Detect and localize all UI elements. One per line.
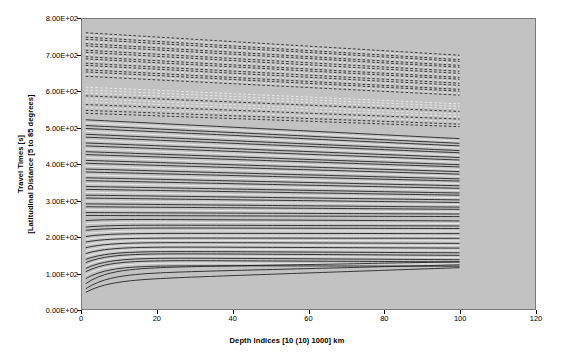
y-tick-label: 1.00E+02 (30, 270, 78, 279)
travel-time-curve (86, 219, 460, 220)
y-tick-mark (77, 128, 81, 129)
travel-time-curve (86, 222, 460, 223)
x-tick-label: 20 (142, 314, 172, 323)
travel-time-curve (86, 52, 460, 73)
x-tick-mark (384, 310, 385, 314)
x-tick-mark (309, 310, 310, 314)
x-tick-mark (233, 310, 234, 314)
travel-time-curve (86, 70, 460, 90)
chart-figure: Travel Times [s] [Latitudinal Distance [… (0, 0, 574, 357)
x-axis-title: Depth Indices [10 (10) 1000] km (0, 336, 574, 345)
y-tick-mark (77, 237, 81, 238)
travel-time-curve (86, 46, 460, 67)
travel-time-curve (86, 228, 460, 230)
travel-time-curve (86, 50, 460, 71)
travel-time-curve (86, 33, 460, 55)
travel-time-curve (86, 63, 460, 83)
travel-time-curve (86, 169, 460, 179)
y-tick-label: 6.00E+02 (30, 87, 78, 96)
x-tick-label: 0 (66, 314, 96, 323)
y-tick-label: 8.00E+02 (30, 14, 78, 23)
travel-time-curve (86, 262, 460, 284)
travel-time-curve (86, 238, 460, 242)
travel-time-curve (86, 72, 460, 91)
travel-time-curve (86, 215, 460, 216)
travel-time-curve (86, 61, 460, 81)
travel-time-curve (86, 39, 460, 61)
travel-time-curve (86, 126, 460, 144)
travel-time-curve (86, 65, 460, 85)
y-tick-mark (77, 164, 81, 165)
travel-time-curve (86, 195, 460, 200)
x-tick-mark (81, 310, 82, 314)
y-tick-mark (77, 201, 81, 202)
travel-time-curve (86, 59, 460, 79)
travel-time-curve (86, 55, 460, 76)
y-tick-label: 5.00E+02 (30, 124, 78, 133)
travel-time-curve (86, 236, 460, 239)
travel-time-curves (82, 19, 535, 309)
travel-time-curve (86, 128, 460, 145)
travel-time-curve (86, 213, 460, 214)
travel-time-curve (86, 48, 460, 69)
y-axis-tick-labels: 0.00E+001.00E+022.00E+023.00E+024.00E+02… (28, 0, 78, 357)
travel-time-curve (86, 57, 460, 78)
travel-time-curve (86, 120, 460, 139)
plot-area (81, 18, 536, 310)
travel-time-curve (86, 252, 460, 260)
y-tick-label: 7.00E+02 (30, 51, 78, 60)
travel-time-curve (86, 192, 460, 197)
travel-time-curve (86, 210, 460, 212)
x-tick-label: 60 (294, 314, 324, 323)
travel-time-curve (86, 207, 460, 210)
y-tick-mark (77, 18, 81, 19)
y-tick-mark (77, 274, 81, 275)
y-tick-label: 3.00E+02 (30, 197, 78, 206)
travel-time-curve (86, 76, 460, 95)
travel-time-curve (86, 225, 460, 227)
travel-time-curve (86, 123, 460, 141)
x-tick-label: 120 (521, 314, 551, 323)
travel-time-curve (86, 268, 460, 293)
travel-time-curve (86, 35, 460, 57)
x-tick-mark (157, 310, 158, 314)
y-tick-label: 4.00E+02 (30, 160, 78, 169)
travel-time-curve (86, 68, 460, 88)
travel-time-curve (86, 160, 460, 171)
travel-time-curve (86, 113, 460, 126)
travel-time-curve (86, 41, 460, 63)
y-tick-label: 2.00E+02 (30, 233, 78, 242)
x-tick-mark (536, 310, 537, 314)
y-tick-mark (77, 55, 81, 56)
x-tick-mark (460, 310, 461, 314)
x-tick-label: 80 (369, 314, 399, 323)
y-tick-mark (77, 91, 81, 92)
x-tick-label: 40 (218, 314, 248, 323)
x-tick-label: 100 (445, 314, 475, 323)
travel-time-curve (86, 44, 460, 66)
travel-time-curve (86, 266, 460, 279)
y-axis-title-line1: Travel Times [s] (16, 94, 26, 233)
